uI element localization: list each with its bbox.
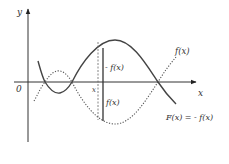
reflection-diagram: y 0 x x - f(x) f(x) f(x) F(x) = - f(x) [0, 0, 229, 164]
curve-F [38, 40, 176, 104]
f-segment-label: f(x) [105, 98, 120, 107]
y-axis-label: y [16, 7, 23, 17]
x-axis-label: x [198, 88, 203, 98]
neg-f-label: - f(x) [105, 63, 124, 72]
origin-label: 0 [16, 84, 22, 94]
F-curve-label: F(x) = - f(x) [165, 113, 213, 122]
marker-x-label: x [92, 86, 96, 94]
f-curve-label: f(x) [174, 46, 190, 56]
